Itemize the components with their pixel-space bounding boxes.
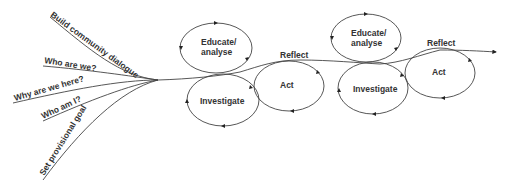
investigate-label: Investigate xyxy=(353,84,398,94)
act-label: Act xyxy=(432,67,446,77)
act-label: Act xyxy=(280,80,294,90)
branch-label-who-are-we: Who are we? xyxy=(44,55,97,73)
analyse-label: analyse xyxy=(351,38,382,48)
arrow-icon xyxy=(185,99,189,103)
investigate-label: Investigate xyxy=(200,96,245,106)
arrow-icon xyxy=(372,112,376,116)
arrow-icon xyxy=(290,109,294,113)
reflect-label: Reflect xyxy=(280,50,309,60)
arrow-icon xyxy=(214,21,218,25)
cycle-2: Educate/ analyse Investigate Act Reflect xyxy=(330,12,475,116)
cycle-diagram: Build community dialogue Who are we? Why… xyxy=(0,0,508,186)
arrow-icon xyxy=(221,124,225,128)
analyse-label: analyse xyxy=(201,47,232,57)
arrow-icon xyxy=(364,12,368,16)
cycle-1: Educate/ analyse Investigate Act Reflect xyxy=(179,21,324,128)
reflect-label: Reflect xyxy=(427,38,456,48)
educate-label: Educate/ xyxy=(351,28,387,38)
educate-label: Educate/ xyxy=(201,37,237,47)
arrow-icon xyxy=(249,85,253,89)
arrow-icon xyxy=(441,96,445,100)
